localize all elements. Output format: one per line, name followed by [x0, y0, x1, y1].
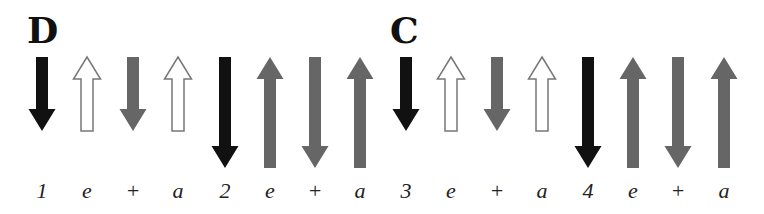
count-label: e: [618, 178, 648, 204]
count-label: a: [345, 178, 375, 204]
strum-up-arrow-icon: [257, 57, 284, 168]
count-label: a: [163, 178, 193, 204]
count-label: a: [709, 178, 739, 204]
count-label: 2: [210, 178, 240, 204]
count-label: +: [118, 178, 148, 204]
count-label: 1: [27, 178, 57, 204]
strum-up-arrow-icon: [165, 57, 192, 131]
count-label: a: [527, 178, 557, 204]
strum-up-arrow-icon: [620, 57, 647, 168]
strum-up-arrow-icon: [74, 57, 101, 131]
count-label: +: [300, 178, 330, 204]
strum-down-arrow-icon: [575, 57, 602, 168]
strum-down-arrow-icon: [120, 57, 147, 131]
strum-down-arrow-icon: [302, 57, 329, 168]
count-label: e: [72, 178, 102, 204]
strum-up-arrow-icon: [347, 57, 374, 168]
strum-up-arrow-icon: [529, 57, 556, 131]
count-label: +: [482, 178, 512, 204]
strum-down-arrow-icon: [665, 57, 692, 168]
strum-down-arrow-icon: [393, 57, 420, 131]
count-label: +: [663, 178, 693, 204]
strum-up-arrow-icon: [438, 57, 465, 131]
count-label: e: [436, 178, 466, 204]
strum-down-arrow-icon: [29, 57, 56, 131]
strum-down-arrow-icon: [484, 57, 511, 131]
count-label: e: [255, 178, 285, 204]
count-label: 3: [391, 178, 421, 204]
strum-up-arrow-icon: [711, 57, 738, 168]
count-label: 4: [573, 178, 603, 204]
strum-down-arrow-icon: [212, 57, 239, 168]
